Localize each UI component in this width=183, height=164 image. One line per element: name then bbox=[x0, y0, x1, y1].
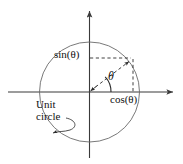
unit-circle-label-line1: Unit bbox=[36, 98, 56, 110]
radius-line-origin-arrow bbox=[91, 86, 97, 91]
unit-circle-svg bbox=[0, 0, 183, 164]
unit-circle-label-line2: circle bbox=[36, 111, 60, 123]
unit-circle-label: Unit circle bbox=[36, 99, 60, 122]
theta-label: θ bbox=[108, 70, 114, 83]
sine-label: sin(θ) bbox=[54, 49, 79, 61]
unit-circle-figure: sin(θ) cos(θ) θ Unit circle bbox=[0, 0, 183, 164]
cosine-label: cos(θ) bbox=[110, 94, 137, 106]
